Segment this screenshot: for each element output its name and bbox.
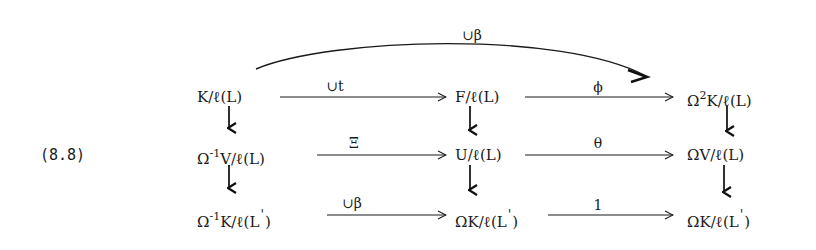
curved-arrow-cup-beta — [256, 44, 646, 76]
diagram-arrows — [0, 0, 816, 250]
